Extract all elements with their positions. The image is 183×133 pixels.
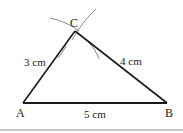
side-bc <box>75 31 167 103</box>
vertex-label-b: B <box>165 106 173 120</box>
vertex-label-a: A <box>16 106 25 120</box>
side-label-ac: 3 cm <box>24 56 46 68</box>
bottom-divider <box>0 129 183 131</box>
triangle-construction-diagram: C A B 3 cm 4 cm 5 cm <box>0 0 183 133</box>
side-label-bc: 4 cm <box>120 55 142 67</box>
side-label-ab: 5 cm <box>84 108 106 120</box>
vertex-label-c: C <box>70 16 78 30</box>
